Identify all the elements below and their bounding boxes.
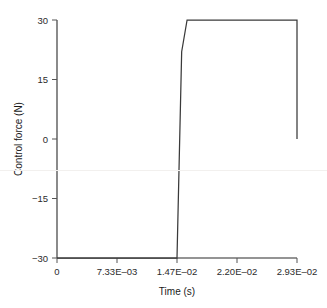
x-tick-label-1: 7.33E–03 xyxy=(97,266,138,277)
y-tick-label-1: −15 xyxy=(32,193,48,204)
y-tick-label-3: 15 xyxy=(37,74,48,85)
x-tick-label-4: 2.93E–02 xyxy=(277,266,318,277)
y-tick-label-4: 30 xyxy=(37,15,48,26)
x-axis-title: Time (s) xyxy=(159,286,195,297)
control-force-vs-time-plot: 30 15 0 −15 −30 0 7.33E–03 1.47E–02 2.20… xyxy=(0,0,327,308)
x-tick-label-2: 1.47E–02 xyxy=(157,266,198,277)
plot-background xyxy=(0,0,327,308)
chart-figure: 30 15 0 −15 −30 0 7.33E–03 1.47E–02 2.20… xyxy=(0,0,327,308)
x-tick-label-3: 2.20E–02 xyxy=(217,266,258,277)
y-axis-title: Control force (N) xyxy=(13,102,24,176)
y-tick-label-0: −30 xyxy=(32,253,48,264)
x-tick-label-0: 0 xyxy=(54,266,59,277)
y-tick-label-2: 0 xyxy=(43,134,48,145)
